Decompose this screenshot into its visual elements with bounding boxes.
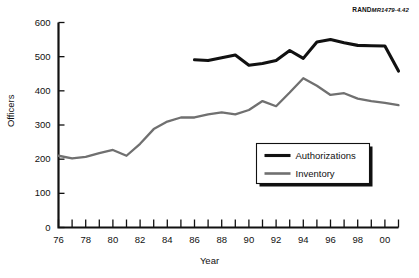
y-tick-label-6: 600 <box>17 18 51 28</box>
legend-label-inventory: Inventory <box>296 168 335 179</box>
x-axis-title: Year <box>0 256 419 266</box>
axis-lines <box>59 23 399 228</box>
y-tick-label-2: 200 <box>17 154 51 164</box>
x-tick-label-20: 96 <box>318 235 344 245</box>
x-tick-label-22: 98 <box>345 235 371 245</box>
y-tick-label-5: 500 <box>17 52 51 62</box>
x-tick-label-6: 82 <box>127 235 153 245</box>
x-axis-ticks <box>59 220 399 228</box>
x-tick-label-12: 88 <box>209 235 235 245</box>
legend-label-authorizations: Authorizations <box>296 150 356 161</box>
x-tick-label-24: 00 <box>372 235 398 245</box>
y-tick-label-3: 300 <box>17 120 51 130</box>
x-tick-label-0: 76 <box>46 235 72 245</box>
y-tick-label-1: 100 <box>17 188 51 198</box>
x-tick-label-16: 92 <box>263 235 289 245</box>
x-tick-label-4: 80 <box>100 235 126 245</box>
series-line-authorizations <box>195 40 399 71</box>
x-tick-label-18: 94 <box>290 235 316 245</box>
data-series-group <box>59 40 399 159</box>
axis-spines <box>59 23 399 228</box>
x-tick-label-2: 78 <box>73 235 99 245</box>
x-tick-label-10: 86 <box>182 235 208 245</box>
y-axis-title: Officers <box>6 76 16 146</box>
rand-source-id: RANDMR1479-4.42 <box>352 7 409 14</box>
rand-document-number: MR1479-4.42 <box>372 7 409 13</box>
y-tick-label-0: 0 <box>17 223 51 233</box>
x-tick-label-8: 84 <box>154 235 180 245</box>
x-tick-label-14: 90 <box>236 235 262 245</box>
y-tick-label-4: 400 <box>17 86 51 96</box>
chart-figure: RANDMR1479-4.42 Officers Year 0100200300… <box>0 0 419 278</box>
rand-brand-label: RAND <box>352 6 371 13</box>
